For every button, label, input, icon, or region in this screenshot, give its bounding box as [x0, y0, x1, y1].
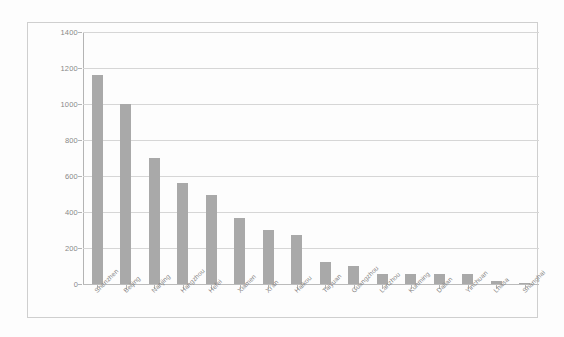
y-tick-label-200: 200: [65, 244, 78, 253]
y-tick-mark-400: [78, 212, 82, 213]
y-tick-label-600: 600: [65, 172, 78, 181]
y-tick-label-1200: 1200: [61, 64, 79, 73]
bar-haikou: [291, 235, 302, 285]
y-tick-label-1400: 1400: [61, 28, 79, 37]
bar-xi-an: [263, 230, 274, 284]
y-tick-label-800: 800: [65, 136, 78, 145]
chart-figure: 0200400600800100012001400 ShenzhenBeijin…: [0, 0, 564, 337]
bar-nanjing: [149, 158, 160, 284]
bar-hefei: [206, 195, 217, 284]
y-axis-ticks: 0200400600800100012001400: [28, 32, 78, 284]
y-tick-mark-1000: [78, 104, 82, 105]
x-axis-labels: ShenzhenBeijingNanjingHangzhouHefeiXiame…: [83, 289, 553, 337]
y-tick-mark-200: [78, 248, 82, 249]
y-tick-label-1000: 1000: [61, 100, 79, 109]
bar-xiamen: [234, 218, 245, 284]
y-tick-mark-1200: [78, 68, 82, 69]
y-tick-mark-1400: [78, 32, 82, 33]
y-tick-label-400: 400: [65, 208, 78, 217]
bar-shenzhen: [92, 75, 103, 284]
bar-beijing: [120, 104, 131, 284]
bar-hangzhou: [177, 183, 188, 284]
y-tick-mark-800: [78, 140, 82, 141]
y-tick-mark-600: [78, 176, 82, 177]
y-tick-mark-0: [78, 284, 82, 285]
bar-series: [83, 32, 539, 285]
chart-frame: 0200400600800100012001400 ShenzhenBeijin…: [27, 22, 538, 318]
